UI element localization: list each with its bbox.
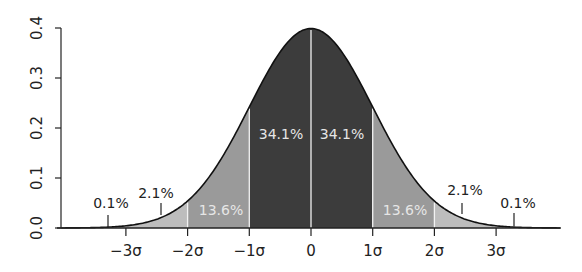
- percent-label: 0.1%: [500, 195, 536, 211]
- x-tick-label: −2σ: [172, 242, 204, 260]
- x-tick-label: 0: [306, 242, 316, 260]
- percent-label: 2.1%: [447, 182, 483, 198]
- x-tick-label: −3σ: [110, 242, 142, 260]
- normal-distribution-chart: 0.00.10.20.30.4 −3σ−2σ−1σ01σ2σ3σ 0.1%2.1…: [0, 0, 582, 272]
- x-tick-label: −1σ: [233, 242, 265, 260]
- y-tick-label: 0.3: [28, 66, 46, 90]
- y-axis: 0.00.10.20.30.4: [28, 16, 61, 240]
- y-tick-label: 0.0: [28, 216, 46, 240]
- percent-label: 0.1%: [93, 195, 129, 211]
- percent-label: 13.6%: [199, 202, 243, 218]
- x-axis: −3σ−2σ−1σ01σ2σ3σ: [57, 228, 560, 260]
- x-tick-label: 3σ: [487, 242, 507, 260]
- x-tick-label: 2σ: [425, 242, 445, 260]
- percent-label: 13.6%: [383, 202, 427, 218]
- y-tick-label: 0.2: [28, 116, 46, 140]
- percent-label: 34.1%: [320, 126, 364, 142]
- y-tick-label: 0.4: [28, 16, 46, 40]
- percent-label: 34.1%: [259, 126, 303, 142]
- x-tick-label: 1σ: [363, 242, 383, 260]
- percent-label: 2.1%: [138, 185, 174, 201]
- y-tick-label: 0.1: [28, 166, 46, 190]
